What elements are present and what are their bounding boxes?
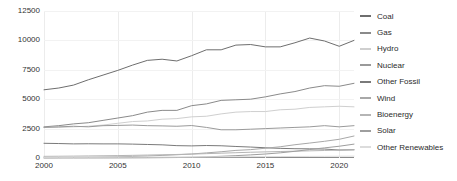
legend-swatch-icon [360, 32, 371, 34]
legend-swatch-icon [360, 114, 371, 116]
y-tick-label: 10000 [4, 36, 40, 44]
y-tick-label: 7500 [4, 66, 40, 74]
legend-item-nuclear[interactable]: Nuclear [360, 57, 457, 73]
legend-item-solar[interactable]: Solar [360, 123, 457, 139]
chart-container: 02500500075001000012500 2000200520102015… [0, 0, 457, 181]
legend-item-label: Other Fossil [377, 77, 420, 86]
y-tick-label: 5000 [4, 95, 40, 103]
legend-item-label: Other Renewables [377, 143, 443, 152]
legend-swatch-icon [360, 81, 371, 83]
legend-item-coal[interactable]: Coal [360, 8, 457, 24]
series-line-wind [44, 136, 354, 158]
x-tick-label: 2010 [183, 162, 201, 170]
legend-item-label: Wind [377, 94, 395, 103]
legend-swatch-icon [360, 97, 371, 99]
legend-item-wind[interactable]: Wind [360, 90, 457, 106]
legend-item-label: Gas [377, 28, 392, 37]
series-line-other-fossil [44, 143, 354, 150]
y-tick-label: 12500 [4, 7, 40, 15]
legend-swatch-icon [360, 48, 371, 50]
legend-item-label: Bioenergy [377, 110, 413, 119]
series-lines [44, 11, 354, 158]
legend-item-label: Coal [377, 12, 393, 21]
legend-item-gas[interactable]: Gas [360, 24, 457, 40]
legend-item-other-fossil[interactable]: Other Fossil [360, 74, 457, 90]
legend-item-hydro[interactable]: Hydro [360, 41, 457, 57]
legend-swatch-icon [360, 146, 371, 148]
legend-item-label: Nuclear [377, 61, 405, 70]
series-line-hydro [44, 106, 354, 127]
legend-swatch-icon [360, 64, 371, 66]
legend-item-label: Hydro [377, 44, 398, 53]
x-tick-label: 2020 [330, 162, 348, 170]
plot-area [44, 11, 354, 158]
legend-swatch-icon [360, 15, 371, 17]
legend: CoalGasHydroNuclearOther FossilWindBioen… [360, 8, 457, 156]
series-line-gas [44, 83, 354, 127]
x-tick-label: 2000 [35, 162, 53, 170]
legend-item-label: Solar [377, 126, 396, 135]
legend-item-bioenergy[interactable]: Bioenergy [360, 106, 457, 122]
legend-swatch-icon [360, 130, 371, 132]
legend-item-other-renewables[interactable]: Other Renewables [360, 139, 457, 155]
x-tick-label: 2015 [257, 162, 275, 170]
series-line-coal [44, 38, 354, 90]
x-tick-label: 2005 [109, 162, 127, 170]
y-tick-label: 2500 [4, 125, 40, 133]
